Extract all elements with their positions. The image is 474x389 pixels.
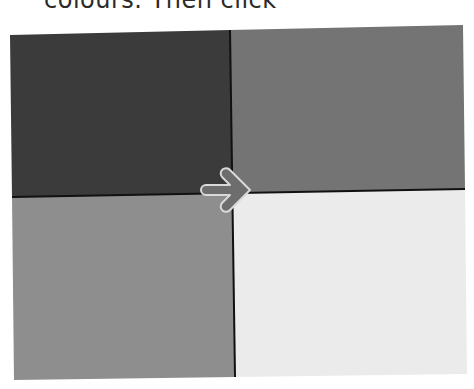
arrow-right-icon[interactable] (200, 163, 260, 217)
four-square-grid (0, 0, 474, 389)
